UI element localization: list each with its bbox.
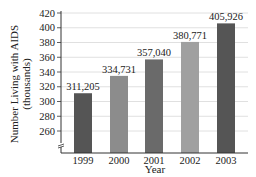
bar-2002 (181, 42, 199, 153)
bar-2000 (110, 76, 128, 153)
data-label-2003: 405,926 (209, 11, 243, 22)
y-tick-label: 360 (39, 52, 55, 63)
x-tick-label: 2002 (180, 155, 201, 166)
x-tick-label: 2000 (109, 155, 130, 166)
y-tick-label: 420 (39, 8, 55, 19)
y-tick-label: 380 (39, 37, 55, 48)
y-tick-label: 400 (39, 22, 55, 33)
bar-2003 (217, 23, 235, 153)
y-tick-label: 320 (39, 81, 55, 92)
y-tick-label: 280 (39, 111, 55, 122)
x-axis-title: Year (145, 163, 166, 175)
y-axis-title-line1: Number Living with AIDS (8, 25, 20, 143)
x-tick-label: 1999 (73, 155, 94, 166)
data-label-2000: 334,731 (102, 64, 136, 75)
y-axis-title-line2: (thousands) (20, 58, 33, 110)
y-axis-title: Number Living with AIDS (thousands) (8, 25, 33, 143)
bar-1999 (74, 93, 92, 153)
y-tick-label: 340 (39, 67, 55, 78)
x-tick-label: 2003 (216, 155, 237, 166)
data-label-2002: 380,771 (173, 30, 207, 41)
y-axis-ticks: 260280300320340360380400420 (39, 8, 61, 137)
y-tick-label: 300 (39, 96, 55, 107)
data-label-1999: 311,205 (66, 81, 100, 92)
bar-chart: 260280300320340360380400420 199920002001… (0, 0, 256, 177)
data-label-2001: 357,040 (137, 47, 171, 58)
bar-2001 (145, 59, 163, 153)
y-tick-label: 260 (39, 126, 55, 137)
